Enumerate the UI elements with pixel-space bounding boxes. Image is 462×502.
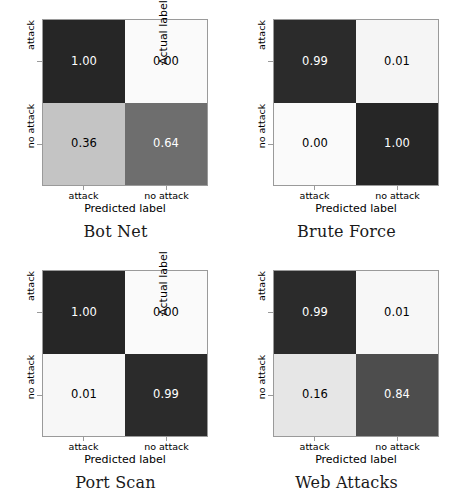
y-tick-label-no-attack: no attack [256, 337, 270, 417]
x-tick-labels: attack no attack [42, 190, 208, 201]
y-tick-label-no-attack: no attack [256, 86, 270, 166]
matrix-cell-1-0: 0.00 [274, 103, 356, 186]
matrix-cell-0-0: 0.99 [274, 271, 356, 354]
clipped-footer-text [14, 493, 314, 502]
subplot-bot-net: Actual label attack no attack 1.00 0.00 … [0, 0, 231, 251]
x-axis-label: Predicted label [273, 453, 439, 466]
cell-value: 0.99 [302, 56, 328, 68]
x-axis-label: Predicted label [273, 202, 439, 215]
confusion-matrix-figure: Actual label attack no attack 1.00 0.00 … [0, 0, 462, 502]
cell-value: 0.64 [153, 138, 179, 150]
matrix-cell-0-1: 0.01 [356, 20, 438, 103]
x-tick-labels: attack no attack [42, 441, 208, 452]
y-tick-label-attack: attack [256, 246, 270, 326]
matrix-axes: 1.00 0.00 0.01 0.99 [42, 270, 208, 437]
cell-value: 0.84 [384, 389, 410, 401]
cell-value: 0.01 [384, 56, 410, 68]
subplot-web-attacks: Actual label attack no attack 0.99 0.01 … [231, 251, 462, 502]
cell-value: 1.00 [384, 138, 410, 150]
x-tick-label-attack: attack [42, 441, 125, 452]
y-tick-label-attack: attack [25, 0, 39, 75]
matrix-axes: 0.99 0.01 0.16 0.84 [273, 270, 439, 437]
matrix-cell-0-1: 0.01 [356, 271, 438, 354]
cell-value: 0.16 [302, 389, 328, 401]
matrix-cell-1-1: 0.84 [356, 354, 438, 437]
cell-value: 0.99 [153, 389, 179, 401]
cell-value: 0.99 [302, 307, 328, 319]
matrix-cell-1-0: 0.16 [274, 354, 356, 437]
x-tick-label-attack: attack [273, 441, 356, 452]
subplot-title: Web Attacks [231, 473, 462, 492]
y-tick-label-attack: attack [256, 0, 270, 75]
x-tick-label-no-attack: no attack [125, 441, 208, 452]
cell-value: 0.01 [384, 307, 410, 319]
x-axis-label: Predicted label [42, 453, 208, 466]
y-axis-label: Actual label [157, 200, 171, 367]
cell-value: 0.01 [71, 389, 97, 401]
matrix-axes: 0.99 0.01 0.00 1.00 [273, 19, 439, 186]
matrix-cell-1-0: 0.01 [43, 354, 125, 437]
matrix-cell-0-0: 0.99 [274, 20, 356, 103]
x-tick-label-no-attack: no attack [356, 441, 439, 452]
subplot-title: Port Scan [0, 473, 231, 492]
subplot-brute-force: Actual label attack no attack 0.99 0.01 … [231, 0, 462, 251]
subplot-port-scan: Actual label attack no attack 1.00 0.00 … [0, 251, 231, 502]
x-tick-labels: attack no attack [273, 190, 439, 201]
y-tick-label-no-attack: no attack [25, 337, 39, 417]
cell-value: 0.00 [302, 138, 328, 150]
cell-value: 1.00 [71, 307, 97, 319]
subplot-title: Brute Force [231, 222, 462, 241]
matrix-cell-1-1: 1.00 [356, 103, 438, 186]
y-axis-label: Actual label [157, 0, 171, 116]
subplot-title: Bot Net [0, 222, 231, 241]
y-tick-label-attack: attack [25, 246, 39, 326]
x-tick-label-attack: attack [42, 190, 125, 201]
cell-value: 1.00 [71, 56, 97, 68]
matrix-cell-0-0: 1.00 [43, 20, 125, 103]
x-tick-label-no-attack: no attack [356, 190, 439, 201]
cell-value: 0.36 [71, 138, 97, 150]
matrix-cell-0-0: 1.00 [43, 271, 125, 354]
x-tick-labels: attack no attack [273, 441, 439, 452]
x-tick-label-attack: attack [273, 190, 356, 201]
matrix-axes: 1.00 0.00 0.36 0.64 [42, 19, 208, 186]
x-axis-label: Predicted label [42, 202, 208, 215]
y-tick-label-no-attack: no attack [25, 86, 39, 166]
matrix-cell-1-0: 0.36 [43, 103, 125, 186]
